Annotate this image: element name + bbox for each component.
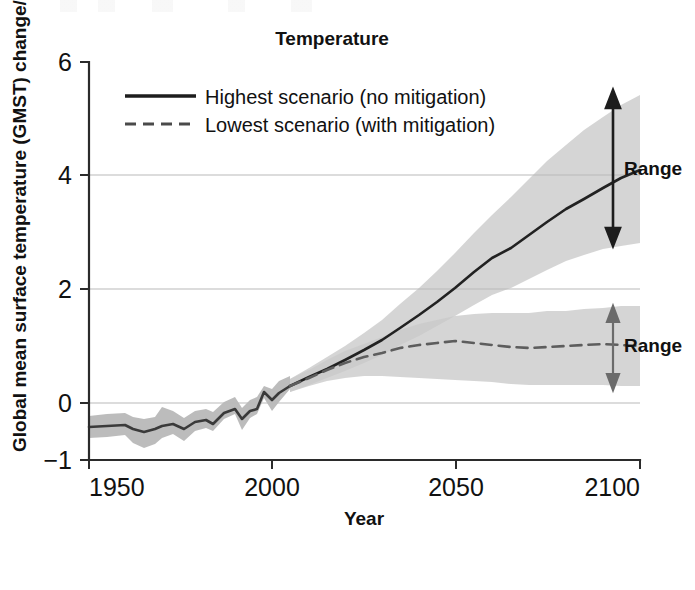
y-tick-label-2: 2 bbox=[58, 275, 72, 303]
y-tick-label-4: 4 bbox=[58, 161, 72, 189]
x-axis-title: Year bbox=[344, 508, 385, 529]
legend-label-highest-scenario: Highest scenario (no mitigation) bbox=[205, 86, 486, 108]
x-tick-label-2100: 2100 bbox=[584, 473, 640, 501]
range-lower-label: Range bbox=[624, 335, 682, 356]
legend-label-lowest-scenario: Lowest scenario (with mitigation) bbox=[205, 114, 495, 136]
range-upper-label: Range bbox=[624, 158, 682, 179]
legend: Highest scenario (no mitigation) Lowest … bbox=[125, 86, 495, 136]
y-tick-label-0: 0 bbox=[58, 389, 72, 417]
legend-item-lowest-scenario: Lowest scenario (with mitigation) bbox=[125, 114, 495, 136]
temperature-chart-svg: Global mean surface temperature (GMST) c… bbox=[0, 0, 695, 590]
cut-off-heading-artifact bbox=[60, 0, 480, 12]
historical-uncertainty-band bbox=[89, 376, 290, 448]
x-tick-label-2000: 2000 bbox=[244, 473, 300, 501]
x-tick-label-1950: 1950 bbox=[89, 473, 145, 501]
chart-title: Temperature bbox=[275, 28, 389, 49]
y-tick-label-minus1: −1 bbox=[43, 446, 72, 474]
x-tick-label-2050: 2050 bbox=[428, 473, 484, 501]
range-upper-arrowhead-top bbox=[606, 90, 620, 108]
y-tick-label-6: 6 bbox=[58, 48, 72, 76]
y-axis-title: Global mean surface temperature (GMST) c… bbox=[9, 0, 30, 452]
legend-item-highest-scenario: Highest scenario (no mitigation) bbox=[125, 86, 486, 108]
temperature-projection-figure: Global mean surface temperature (GMST) c… bbox=[0, 0, 695, 590]
